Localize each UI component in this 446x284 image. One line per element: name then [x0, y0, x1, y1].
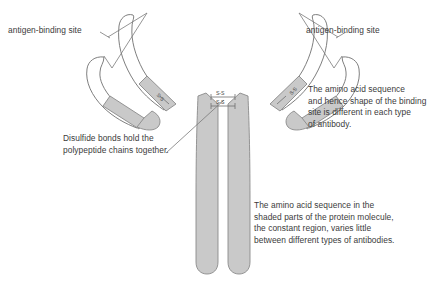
antigen-binding-site-label-left: antigen-binding site: [8, 25, 82, 37]
antigen-binding-site-label-right: antigen-binding site: [306, 25, 380, 37]
fc-stem: [196, 93, 250, 274]
stem-left-heavy-chain: [196, 93, 218, 274]
hinge-upper-ss-label: S-S: [216, 90, 224, 96]
stem-right-heavy-chain: [228, 93, 250, 274]
constant-region-caption: The amino acid sequence in the shaded pa…: [254, 200, 395, 246]
hinge-lower-ss-label: S-S: [216, 99, 224, 105]
antibody-diagram-page: antigen-binding site antigen-binding sit…: [0, 0, 446, 284]
left-heavy-chain-arm: [119, 15, 176, 111]
disulfide-bonds-caption: Disulfide bonds hold the polypeptide cha…: [63, 133, 169, 156]
left-antigen-site-leader: [100, 32, 110, 38]
variable-region-caption: The amino acid sequence and hence shape …: [308, 84, 426, 130]
